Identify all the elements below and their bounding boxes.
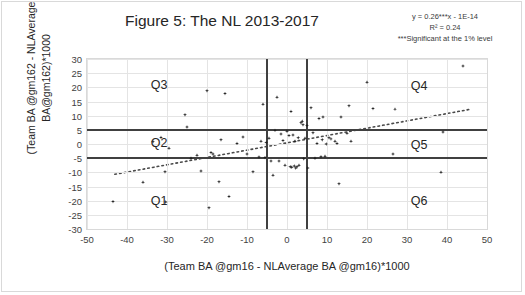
y-axis-title-line1: (Team BA @gm162 - NLAverage [24,0,39,178]
data-point [311,131,315,135]
data-point [320,138,324,142]
y-tick-label: -25 [56,209,82,220]
y-tick-label: 20 [56,82,82,93]
data-point [261,102,265,106]
x-tick-label: 20 [347,234,387,245]
data-point [347,104,351,108]
gridline-vertical [287,59,288,229]
data-point [279,132,283,136]
chart-title: Figure 5: The NL 2013-2017 [62,12,382,30]
y-tick-label: 0 [56,139,82,150]
r-squared-value: R² = 0.24 [370,22,520,33]
data-point [259,139,263,143]
data-point [317,117,321,121]
gridline-vertical [247,59,248,229]
gridline-vertical [367,59,368,229]
y-tick-label: 25 [56,68,82,79]
data-point [296,136,300,140]
significance-note: ***Significant at the 1% level [370,33,520,44]
x-tick-label: 30 [387,234,427,245]
data-point [293,139,297,143]
y-tick-label: -30 [56,224,82,235]
quadrant-label-q1: Q1 [151,194,168,208]
quadrant-label-q2: Q2 [151,136,168,150]
reference-line-vertical [306,59,308,229]
data-point [205,89,209,93]
data-point [241,135,245,139]
gridline-vertical [487,59,488,229]
x-tick-label: 50 [467,234,507,245]
data-point [219,138,223,142]
y-tick-label: -5 [56,153,82,164]
x-tick-label: -30 [147,234,187,245]
y-tick-label: 15 [56,96,82,107]
x-tick-label: -10 [227,234,267,245]
data-point [141,180,145,184]
y-tick-label: 5 [56,124,82,135]
gridline-vertical [87,59,88,229]
x-tick-label: 40 [427,234,467,245]
data-point [271,173,275,177]
plot-area: Q3Q2Q1Q4Q5Q6 [86,58,488,230]
data-point [245,152,249,156]
data-point [391,152,395,156]
data-point [461,64,465,68]
data-point [227,194,231,198]
data-point [309,106,313,110]
gridline-vertical [407,59,408,229]
gridline-horizontal [87,229,487,230]
y-axis-ticks: 302520151050-5-10-15-20-25-30 [52,58,82,230]
x-tick-label: 10 [307,234,347,245]
quadrant-label-q6: Q6 [411,194,428,208]
x-axis-title: (Team BA @gm16 - NLAverage BA @gm16)*100… [86,260,488,272]
data-point [291,133,295,137]
x-tick-label: -50 [67,234,107,245]
data-point [281,139,285,143]
data-point [277,159,281,163]
regression-annotation: y = 0.26***x - 1E-14 R² = 0.24 ***Signif… [370,11,520,44]
data-point [345,131,349,135]
data-point [337,182,341,186]
figure-container: Figure 5: The NL 2013-2017 y = 0.26***x … [1,1,522,292]
x-tick-label: -40 [107,234,147,245]
data-point [371,107,375,111]
data-point [393,107,397,111]
y-tick-label: -10 [56,167,82,178]
data-point [439,170,443,174]
data-point [349,139,353,143]
data-point [301,123,305,127]
x-axis-ticks: -50-40-30-20-1001020304050 [86,234,488,248]
data-point [217,180,221,184]
data-point [275,95,279,99]
data-point [365,80,369,84]
data-point [289,109,293,113]
gridline-vertical [447,59,448,229]
quadrant-label-q3: Q3 [151,78,168,92]
y-tick-label: 10 [56,110,82,121]
regression-equation: y = 0.26***x - 1E-14 [370,11,520,22]
x-tick-label: -20 [187,234,227,245]
data-point [223,92,227,96]
quadrant-label-q4: Q4 [411,79,428,93]
gridline-vertical [207,59,208,229]
y-tick-label: 30 [56,54,82,65]
reference-line-horizontal [87,157,487,159]
data-point [333,139,337,143]
y-tick-label: -15 [56,181,82,192]
quadrant-label-q5: Q5 [411,138,428,152]
y-tick-label: -20 [56,195,82,206]
x-tick-label: 0 [267,234,307,245]
data-point [269,159,273,163]
gridline-vertical [127,59,128,229]
